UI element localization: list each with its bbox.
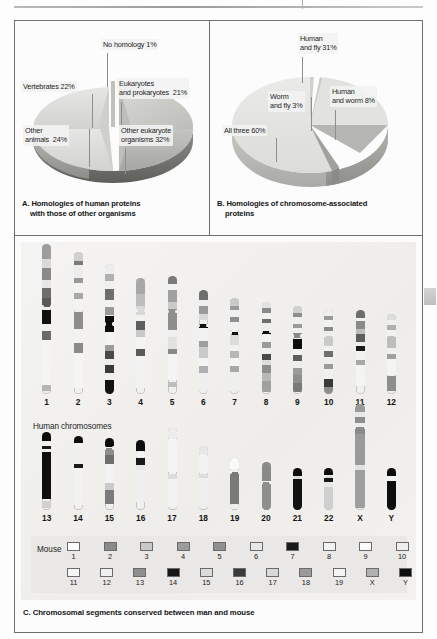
mouse-chromosome-swatch-14 bbox=[167, 568, 180, 577]
chromosome-band bbox=[230, 372, 239, 391]
mouse-chromosome-number-11: 11 bbox=[64, 578, 84, 587]
chromosome-band bbox=[105, 483, 114, 490]
pie-b-label-0: Human and fly 31% bbox=[298, 33, 338, 54]
chromosome-band bbox=[136, 278, 145, 294]
centromere-notch bbox=[323, 334, 325, 338]
chromosome-band bbox=[230, 310, 239, 317]
chromosome-band bbox=[387, 468, 396, 476]
chromosome-number: 3 bbox=[107, 397, 112, 407]
centromere-notch bbox=[394, 476, 396, 480]
centromere-notch bbox=[104, 322, 106, 326]
chromosome-band bbox=[42, 268, 51, 280]
chromosome-number: X bbox=[357, 513, 363, 523]
top-rule-tick bbox=[302, 0, 303, 9]
chromosome-band bbox=[105, 380, 114, 394]
chromosome-band bbox=[293, 383, 302, 392]
chromosome-band bbox=[168, 290, 177, 302]
chromosome-band bbox=[199, 358, 208, 366]
chromosome-number: 5 bbox=[170, 397, 175, 407]
centromere-notch bbox=[229, 331, 231, 335]
chromosome-band bbox=[136, 458, 145, 465]
mouse-chromosome-swatch-3 bbox=[140, 542, 153, 551]
chromosome-band bbox=[42, 259, 51, 268]
human-chromosome-row-1: 123456789101112 bbox=[31, 244, 407, 412]
chromosome-band bbox=[293, 368, 302, 375]
centromere-notch bbox=[363, 342, 365, 346]
pie-a-label-0: No homology 1% bbox=[101, 39, 158, 50]
pie-a-label-1: Vertebrates 22% bbox=[21, 81, 77, 92]
chromosome-band bbox=[262, 381, 271, 392]
chromosome-band bbox=[293, 479, 302, 510]
mouse-chromosome-swatch-13 bbox=[133, 568, 146, 577]
mouse-chromosome-swatch-7 bbox=[286, 542, 299, 551]
chromosome-band bbox=[324, 320, 333, 327]
chromosome-number: 17 bbox=[167, 513, 176, 523]
chromosome-band bbox=[42, 385, 51, 391]
chromosome-15: 15 bbox=[105, 438, 114, 510]
chromosome-band bbox=[105, 281, 114, 289]
pie-a-leader-3 bbox=[89, 129, 90, 167]
chromosome-band bbox=[42, 310, 51, 324]
centromere-notch bbox=[135, 452, 137, 456]
chromosome-band bbox=[74, 265, 83, 278]
pie-b-leader-2 bbox=[311, 97, 312, 131]
mouse-chromosome-swatch-15 bbox=[200, 568, 213, 577]
chromosome-number: 4 bbox=[138, 397, 143, 407]
chromosome-body bbox=[199, 290, 208, 394]
centromere-notch bbox=[229, 470, 231, 474]
chromosome-band bbox=[136, 356, 145, 388]
pie-a-leader-1 bbox=[92, 94, 93, 128]
centromere-notch bbox=[206, 324, 208, 328]
centromere-notch bbox=[394, 333, 396, 337]
chromosome-8: 8 bbox=[262, 302, 271, 394]
chromosome-12: 12 bbox=[387, 314, 396, 394]
chromosome-band bbox=[168, 330, 177, 337]
chromosome-number: 22 bbox=[324, 513, 333, 523]
centromere-notch bbox=[238, 331, 240, 335]
chromosome-18: 18 bbox=[199, 446, 208, 510]
pie-a-label-4: Other eukaryote organisms 32% bbox=[119, 125, 173, 146]
mouse-chromosome-swatch-9 bbox=[359, 542, 372, 551]
panel-a: No homology 1% Vertebrates 22% Eukaryote… bbox=[15, 21, 209, 235]
chromosome-body bbox=[230, 458, 239, 510]
panel-b-caption: B. Homologies of chromosome-associated p… bbox=[217, 199, 367, 219]
mouse-chromosome-number-15: 15 bbox=[196, 578, 216, 587]
chromosome-band bbox=[168, 302, 177, 309]
chromosome-body bbox=[74, 252, 83, 394]
chromosome-number: 10 bbox=[324, 397, 333, 407]
chromosome-body bbox=[42, 244, 51, 394]
centromere-notch bbox=[261, 481, 263, 485]
chromosome-band bbox=[136, 470, 145, 502]
mouse-chromosome-number-18: 18 bbox=[296, 578, 316, 587]
chromosome-band bbox=[230, 505, 239, 509]
chromosome-band bbox=[105, 438, 114, 447]
mouse-chromosome-number-1: 1 bbox=[64, 552, 84, 561]
chromosome-body bbox=[293, 306, 302, 394]
page-edge-tab bbox=[424, 288, 436, 305]
chromosome-band bbox=[199, 347, 208, 357]
chromosome-number: 12 bbox=[387, 397, 396, 407]
chromosome-number: 18 bbox=[199, 513, 208, 523]
panel-b-caption-line1: B. Homologies of chromosome-associated bbox=[217, 199, 367, 208]
chromosome-number: 6 bbox=[201, 397, 206, 407]
chromosome-band bbox=[199, 328, 208, 340]
mouse-chromosome-number-8: 8 bbox=[319, 552, 339, 561]
centromere-notch bbox=[175, 310, 177, 314]
chromosome-band bbox=[136, 294, 145, 306]
chromosome-band bbox=[324, 336, 333, 346]
chromosome-band bbox=[293, 375, 302, 384]
chromosome-number: 19 bbox=[230, 513, 239, 523]
pie-b-leader-1 bbox=[335, 110, 336, 140]
top-rule bbox=[14, 6, 423, 8]
chromosome-band bbox=[199, 446, 208, 454]
centromere-notch bbox=[73, 307, 75, 311]
mouse-chromosome-number-13: 13 bbox=[130, 578, 150, 587]
mouse-chromosome-number-3: 3 bbox=[137, 552, 157, 561]
centromere-notch bbox=[206, 455, 208, 459]
chromosome-band bbox=[74, 445, 83, 464]
chromosome-band bbox=[168, 354, 177, 380]
chromosome-number: Y bbox=[389, 513, 395, 523]
chromosome-band bbox=[262, 482, 271, 510]
mouse-chromosome-swatch-X bbox=[366, 568, 379, 577]
chromosome-number: 20 bbox=[261, 513, 270, 523]
